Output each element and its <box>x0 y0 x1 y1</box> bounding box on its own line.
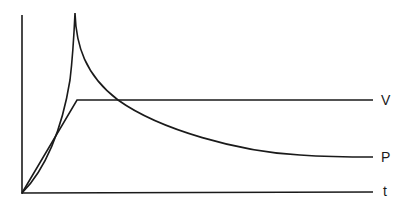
label-v: V <box>381 93 390 107</box>
label-p: P <box>381 150 390 164</box>
t-axis <box>22 192 373 193</box>
diagram-plot <box>0 0 402 203</box>
label-t: t <box>383 184 387 198</box>
v-curve <box>22 100 373 193</box>
diagram-canvas: V P t <box>0 0 402 203</box>
